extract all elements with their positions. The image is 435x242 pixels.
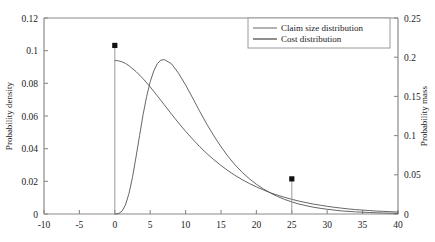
y-tick-label: 0.06 xyxy=(21,112,38,122)
x-tick-label: 40 xyxy=(393,220,403,230)
y-tick-label: 0.04 xyxy=(21,144,38,154)
y-tick-label: 0.08 xyxy=(21,79,38,89)
y2-tick-label: 0 xyxy=(404,210,409,220)
y-axis-title: Probability density xyxy=(4,81,14,150)
chart-figure: -10-5051015202530354000.020.040.060.080.… xyxy=(0,0,435,242)
mass-marker xyxy=(289,176,294,181)
x-tick-label: 10 xyxy=(181,220,191,230)
legend-label-0: Claim size distribution xyxy=(281,23,363,33)
y-tick-label: 0.12 xyxy=(21,14,38,24)
x-tick-label: 30 xyxy=(322,220,332,230)
y-tick-label: 0.02 xyxy=(21,177,38,187)
series-line-1 xyxy=(115,60,398,214)
x-tick-label: 20 xyxy=(252,220,262,230)
x-tick-label: 35 xyxy=(358,220,368,230)
x-tick-label: -5 xyxy=(75,220,83,230)
x-tick-label: 25 xyxy=(287,220,297,230)
mass-marker xyxy=(112,43,117,48)
x-tick-label: 5 xyxy=(148,220,153,230)
y2-tick-label: 0.1 xyxy=(404,131,416,141)
y-tick-label: 0 xyxy=(33,210,38,220)
x-tick-label: -10 xyxy=(38,220,51,230)
y2-tick-label: 0.05 xyxy=(404,170,421,180)
y2-tick-label: 0.2 xyxy=(404,53,416,63)
series-line-0 xyxy=(115,60,398,212)
y2-axis-title: Probability mass xyxy=(419,85,429,146)
x-tick-label: 15 xyxy=(216,220,226,230)
y2-tick-label: 0.25 xyxy=(404,14,421,24)
y-tick-label: 0.1 xyxy=(26,46,38,56)
legend-label-1: Cost distribution xyxy=(281,34,342,44)
x-tick-label: 0 xyxy=(112,220,117,230)
probability-chart: -10-5051015202530354000.020.040.060.080.… xyxy=(0,0,435,242)
